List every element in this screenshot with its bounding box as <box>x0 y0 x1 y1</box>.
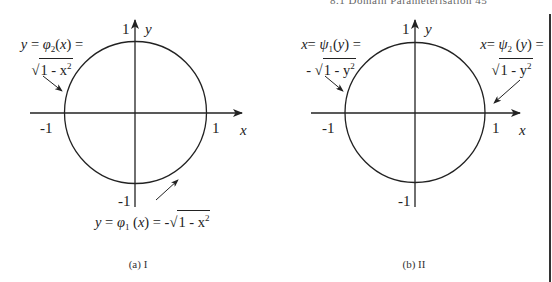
y-tick-neg: -1 <box>398 194 411 209</box>
x-axis-label: x <box>519 123 526 138</box>
equation-phi1: y = φ1 (x) = -√1 - x2 <box>95 210 210 236</box>
x-tick-pos: 1 <box>492 121 500 136</box>
figure-caption: (a) I <box>0 258 276 270</box>
eq-arg: y <box>338 36 344 52</box>
y-tick-pos: 1 <box>402 22 410 37</box>
x-tick-pos: 1 <box>212 121 220 136</box>
page-edge-rule <box>549 14 551 282</box>
eq-func: φ <box>117 214 125 230</box>
eq-lhs: y <box>95 214 101 230</box>
equation-phi2: y = φ2(x) = √1 - x2 <box>12 36 92 79</box>
eq-func-sub: 2 <box>51 44 56 54</box>
eq-func-sub: 1 <box>125 222 130 232</box>
x-axis-label: x <box>240 123 247 138</box>
eq-sqrt-body: 1 - x <box>178 214 205 230</box>
eq-sqrt-body: 1 - y <box>500 62 527 78</box>
x-tick-neg: -1 <box>322 121 335 136</box>
arrow-icon-right <box>494 80 520 103</box>
eq-arg: x <box>138 214 144 230</box>
eq-arg: x <box>60 36 66 52</box>
eq-func: ψ <box>499 36 508 52</box>
y-axis-label: y <box>145 22 152 37</box>
eq-sqrt-body: 1 - x <box>40 62 67 78</box>
eq-sign: - <box>306 62 311 78</box>
eq-lhs: y <box>21 36 27 52</box>
y-tick-neg: -1 <box>118 194 131 209</box>
figure-a-unit-circle-type-I: 1 y -1 1 x -1 y = φ2(x) = √1 - x2 y = φ1… <box>0 0 276 282</box>
y-tick-pos: 1 <box>122 22 130 37</box>
y-axis-label: y <box>425 22 432 37</box>
x-tick-neg: -1 <box>40 121 53 136</box>
eq-sqrt-exp: 2 <box>350 61 355 71</box>
eq-sqrt-body: 1 - y <box>324 62 351 78</box>
eq-sqrt-exp: 2 <box>67 61 72 71</box>
eq-sqrt-exp: 2 <box>205 213 210 223</box>
eq-func-sub: 2 <box>508 44 513 54</box>
eq-sqrt-exp: 2 <box>527 61 532 71</box>
arrow-icon-lower <box>156 180 178 200</box>
figure-b-unit-circle-type-II: 1 y -1 1 x -1 x= ψ1(y) = - √1 - y2 x= ψ2… <box>276 0 552 282</box>
eq-func-sub: 1 <box>328 44 333 54</box>
equation-psi1: x= ψ1(y) = - √1 - y2 <box>290 36 372 79</box>
eq-func: φ <box>43 36 51 52</box>
eq-arg: y <box>521 36 527 52</box>
figure-caption: (b) II <box>276 258 552 270</box>
eq-sign: - <box>165 214 170 230</box>
eq-lhs: x <box>301 36 307 52</box>
eq-lhs: x <box>480 36 486 52</box>
equation-psi2: x= ψ2 (y) = √1 - y2 <box>474 36 550 79</box>
